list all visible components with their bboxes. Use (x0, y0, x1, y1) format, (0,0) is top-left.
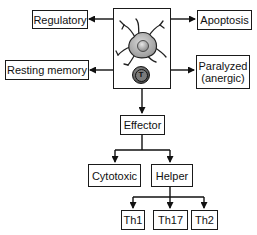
th17-box: Th17 (153, 210, 188, 230)
helper-label: Helper (156, 170, 188, 182)
apoptosis-box: Apoptosis (197, 10, 252, 30)
th2-label: Th2 (195, 214, 214, 226)
th1-box: Th1 (121, 210, 145, 230)
anergic-label: (anergic) (201, 72, 244, 84)
helper-box: Helper (151, 164, 193, 187)
cytotoxic-box: Cytotoxic (88, 164, 141, 187)
regulatory-box: Regulatory (32, 10, 88, 29)
resting-memory-label: Resting memory (7, 64, 87, 76)
regulatory-label: Regulatory (33, 14, 86, 26)
t-cell-icon: T (132, 66, 150, 84)
paralyzed-label: Paralyzed (199, 60, 248, 72)
resting-memory-box: Resting memory (5, 60, 89, 80)
th17-label: Th17 (158, 214, 183, 226)
th1-label: Th1 (124, 214, 143, 226)
apoptosis-label: Apoptosis (200, 14, 248, 26)
t-cell-label: T (135, 69, 148, 82)
cytotoxic-label: Cytotoxic (92, 170, 137, 182)
effector-box: Effector (120, 115, 165, 135)
cell-interaction-box: T (113, 8, 171, 89)
th2-box: Th2 (191, 210, 218, 230)
effector-label: Effector (124, 119, 162, 131)
paralyzed-box: Paralyzed (anergic) (196, 55, 250, 89)
